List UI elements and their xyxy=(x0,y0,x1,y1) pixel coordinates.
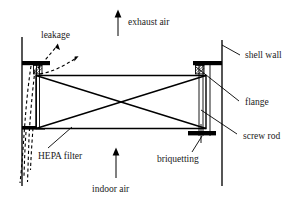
label-exhaust-air: exhaust air xyxy=(128,17,170,27)
label-indoor-air: indoor air xyxy=(92,184,130,194)
leader-line-briquetting xyxy=(192,136,202,152)
label-flange: flange xyxy=(245,97,269,107)
figure-canvas: leakage exhaust air shell wall flange sc… xyxy=(0,0,307,199)
label-hepa-filter: HEPA filter xyxy=(38,151,83,161)
exhaust-air-arrow xyxy=(115,10,122,37)
flange-upper-left xyxy=(22,61,50,65)
indoor-air-arrow xyxy=(113,148,120,179)
label-leakage: leakage xyxy=(41,30,70,40)
leader-line-hepa-filter xyxy=(48,127,72,148)
label-screw-rod: screw rod xyxy=(243,131,280,141)
hepa-filter-body xyxy=(36,76,206,129)
label-shell-wall: shell wall xyxy=(245,50,282,60)
cross-section-diagram: leakage exhaust air shell wall flange sc… xyxy=(0,0,307,199)
label-briquetting: briquetting xyxy=(157,154,199,164)
leader-line-shell-wall xyxy=(222,45,240,55)
flange-upper-right xyxy=(193,61,222,65)
